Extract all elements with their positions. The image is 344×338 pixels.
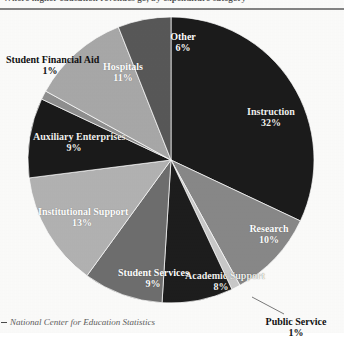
slice-label-instruction: Instruction 32% (228, 106, 314, 128)
source-dash-icon (1, 322, 7, 323)
slice-label-instruction-value: 32% (228, 117, 314, 128)
slice-label-research-value: 10% (236, 234, 302, 245)
slice-label-auxiliary-enterprises-name: Auxiliary Enterprises (33, 131, 115, 142)
slice-label-research: Research 10% (236, 223, 302, 245)
slice-label-academic-support-value: 8% (185, 281, 257, 292)
slice-label-student-financial-aid-value: 1% (6, 65, 94, 76)
slice-label-auxiliary-enterprises-value: 9% (33, 142, 115, 153)
public-service-leader-line (252, 297, 284, 314)
slice-label-auxiliary-enterprises: Auxiliary Enterprises 9% (33, 131, 115, 153)
slice-label-institutional-support: Institutional Support 13% (38, 206, 126, 228)
slice-label-student-services-name: Student Services (118, 267, 188, 278)
slice-label-hospitals: Hospitals 11% (88, 61, 158, 83)
pie-chart: Instruction 32% Research 10% Academic Su… (0, 9, 344, 317)
slice-label-institutional-support-name: Institutional Support (38, 206, 126, 217)
slice-label-public-service: Public Service 1% (252, 316, 340, 338)
slice-label-research-name: Research (236, 223, 302, 234)
slice-label-other-value: 6% (152, 42, 214, 53)
slice-label-public-service-name: Public Service (252, 316, 340, 327)
slice-label-student-financial-aid-name: Student Financial Aid (6, 54, 94, 65)
slice-label-institutional-support-value: 13% (38, 217, 126, 228)
source-text: National Center for Education Statistics (10, 318, 155, 327)
slice-label-academic-support-name: Academic Support (185, 270, 257, 281)
slice-label-hospitals-name: Hospitals (88, 61, 158, 72)
slice-label-instruction-name: Instruction (228, 106, 314, 117)
slice-label-other-name: Other (152, 31, 214, 42)
slice-label-public-service-value: 1% (252, 327, 340, 338)
page-title: Where higher education revenues go, by e… (3, 0, 246, 3)
slice-label-other: Other 6% (152, 31, 214, 53)
slice-label-student-services: Student Services 9% (118, 267, 188, 289)
slice-label-student-financial-aid: Student Financial Aid 1% (6, 54, 94, 76)
slice-label-academic-support: Academic Support 8% (185, 270, 257, 292)
slice-label-hospitals-value: 11% (88, 72, 158, 83)
slice-label-student-services-value: 9% (118, 278, 188, 289)
